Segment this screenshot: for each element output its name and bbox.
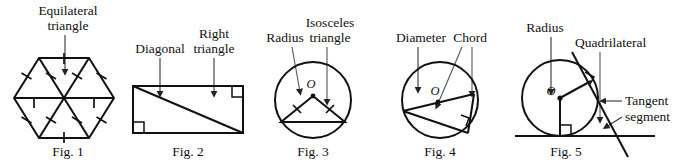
radius-label-fig3: Radius xyxy=(266,30,304,45)
radius-to-tangent-point xyxy=(560,81,591,136)
figure-1-caption: Fig. 1 xyxy=(52,144,84,159)
right-triangle-label-line1: Right xyxy=(199,26,229,41)
isosceles-triangle-label-line2: triangle xyxy=(309,30,350,45)
quadrilateral-label: Quadrilateral xyxy=(575,35,646,50)
radius-label-fig5: Radius xyxy=(526,20,564,35)
right-triangle-label-line2: triangle xyxy=(193,41,234,56)
right-angle-mark-bottom-left xyxy=(133,122,144,133)
chord-label: Chord xyxy=(453,30,487,45)
diameter-label: Diameter xyxy=(396,30,447,45)
geometry-figure-board: Equilateral triangle xyxy=(0,0,675,167)
figure-2-caption: Fig. 2 xyxy=(172,144,204,159)
figure-2-group: Diagonal Right triangle Fig. 2 xyxy=(133,26,243,159)
figure-2-leaders xyxy=(160,58,214,94)
figure-1-group: Equilateral triangle xyxy=(14,3,114,159)
tangent-segment-label-line2: segment xyxy=(625,109,670,124)
figure-3-group: Radius Isosceles triangle O Fig. 3 xyxy=(266,15,354,159)
equilateral-triangle-label-line2: triangle xyxy=(47,18,88,33)
figure-3-leaders xyxy=(292,47,327,102)
figure-4-group: Diameter Chord O Fig. 4 xyxy=(396,30,487,159)
isosceles-triangle-label-line1: Isosceles xyxy=(306,15,355,30)
figure-4-caption: Fig. 4 xyxy=(424,144,456,159)
figure-3-caption: Fig. 3 xyxy=(297,144,329,159)
isosceles-triangle-fig3 xyxy=(281,96,345,122)
figure-5-leaders xyxy=(551,37,622,127)
center-point-fig5 xyxy=(557,95,562,100)
hexagon-diagonals xyxy=(14,58,114,138)
center-label-fig4: O xyxy=(430,84,439,98)
tangent-segment-label-line1: Tangent xyxy=(625,93,669,108)
center-point-fig3 xyxy=(311,94,316,99)
right-angle-mark-top-right xyxy=(232,86,243,97)
center-point-fig4 xyxy=(436,100,441,105)
right-angle-mark-fig4 xyxy=(461,115,469,126)
figure-5-caption: Fig. 5 xyxy=(550,144,582,159)
rectangle-diagonal xyxy=(133,86,243,133)
circle-fig3 xyxy=(275,62,351,138)
diagonal-label: Diagonal xyxy=(135,41,185,56)
figure-5-group: Radius Quadrilateral Tangent segment xyxy=(515,20,670,159)
center-label-fig5: O xyxy=(546,84,555,98)
equilateral-triangle-label-line1: Equilateral xyxy=(38,3,97,18)
center-label-fig3: O xyxy=(306,77,315,91)
geometry-figures-svg: Equilateral triangle xyxy=(0,0,675,167)
